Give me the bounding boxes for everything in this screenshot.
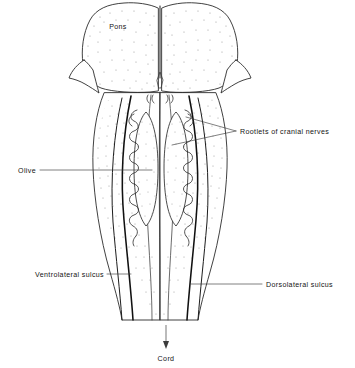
label-ventrolateral-sulcus: Ventrolateral sulcus — [35, 271, 104, 279]
label-cord: Cord — [158, 355, 175, 363]
cord-arrow-head — [163, 341, 169, 349]
medulla-group — [93, 92, 227, 320]
label-rootlets-of-cranial-nerves: Rootlets of cranial nerves — [240, 128, 329, 136]
brainstem-diagram: Pons Rootlets of cranial nerves Olive Ve… — [0, 0, 355, 368]
label-dorsolateral-sulcus: Dorsolateral sulcus — [266, 281, 333, 289]
label-pons: Pons — [109, 23, 127, 31]
label-olive: Olive — [18, 167, 36, 175]
cord-direction-arrow — [163, 325, 169, 349]
anatomical-figure: Pons Rootlets of cranial nerves Olive Ve… — [0, 0, 355, 368]
pons-group — [69, 3, 251, 93]
